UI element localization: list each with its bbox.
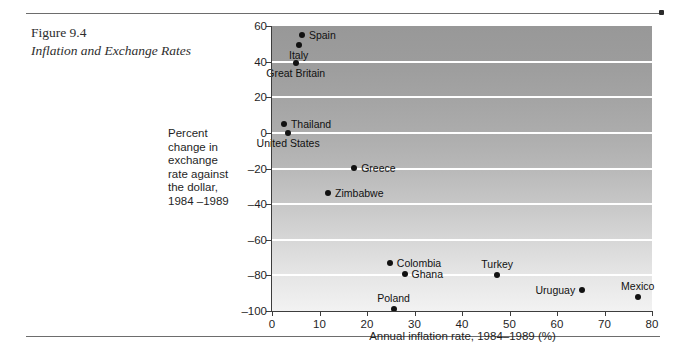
x-tick-label-20: 20 — [361, 318, 374, 330]
gridline-20 — [272, 96, 652, 98]
x-tick-70 — [605, 311, 606, 316]
figure-caption: Figure 9.4 Inflation and Exchange Rates — [31, 24, 206, 60]
y-tick-label--20: –20 — [248, 163, 267, 175]
data-point-mexico — [635, 294, 641, 300]
y-axis-title: Percentchange inexchangerate againstthe … — [168, 127, 256, 209]
y-tick-label--60: –60 — [248, 234, 267, 246]
y-tick-label-40: 40 — [254, 56, 267, 68]
point-label-united-states: United States — [257, 138, 320, 149]
point-label-thailand: Thailand — [291, 118, 331, 129]
y-axis-title-line-1: change in — [168, 141, 256, 155]
point-label-uruguay: Uruguay — [535, 284, 575, 295]
gridline-40 — [272, 61, 652, 63]
y-tick-label--40: –40 — [248, 198, 267, 210]
y-tick-label--80: –80 — [248, 269, 267, 281]
x-tick-label-50: 50 — [503, 318, 516, 330]
y-axis-title-line-0: Percent — [168, 127, 256, 141]
y-axis: 6040200–20–40–60–80–100 — [271, 26, 272, 312]
y-axis-title-line-5: 1984 –1989 — [168, 195, 256, 209]
x-axis: 01020304050607080 — [272, 311, 653, 312]
x-tick-30 — [415, 311, 416, 316]
data-point-ghana — [402, 271, 408, 277]
top-rule — [26, 13, 660, 14]
gridline--20 — [272, 168, 652, 170]
x-tick-label-80: 80 — [646, 318, 659, 330]
x-tick-label-10: 10 — [313, 318, 326, 330]
y-tick-label-0: 0 — [261, 127, 267, 139]
data-point-uruguay — [579, 287, 585, 293]
data-point-thailand — [281, 121, 287, 127]
x-tick-label-60: 60 — [551, 318, 564, 330]
point-label-poland: Poland — [377, 293, 410, 304]
y-axis-title-line-3: rate against — [168, 168, 256, 182]
data-point-spain — [299, 32, 305, 38]
point-label-turkey: Turkey — [481, 259, 513, 270]
gridline--60 — [272, 239, 652, 241]
gridline-0 — [272, 132, 652, 134]
x-tick-80 — [652, 311, 653, 316]
x-tick-60 — [557, 311, 558, 316]
gridline--40 — [272, 203, 652, 205]
data-point-greece — [351, 165, 357, 171]
x-tick-50 — [510, 311, 511, 316]
x-tick-label-70: 70 — [598, 318, 611, 330]
data-point-colombia — [387, 260, 393, 266]
point-label-spain: Spain — [309, 29, 336, 40]
y-axis-title-line-2: exchange — [168, 154, 256, 168]
x-axis-title: Annual inflation rate, 1984–1989 (%) — [272, 330, 653, 342]
y-axis-title-line-4: the dollar, — [168, 181, 256, 195]
point-label-zimbabwe: Zimbabwe — [335, 188, 383, 199]
figure-title: Inflation and Exchange Rates — [31, 42, 206, 60]
point-label-great-britain: Great Britain — [266, 68, 325, 79]
y-tick-label-60: 60 — [254, 20, 267, 32]
x-tick-label-30: 30 — [408, 318, 421, 330]
plot-area: SpainItalyGreat BritainThailandUnited St… — [272, 26, 652, 311]
y-tick-label--100: –100 — [241, 305, 267, 317]
x-tick-label-40: 40 — [456, 318, 469, 330]
point-label-ghana: Ghana — [412, 268, 444, 279]
data-point-italy — [296, 42, 302, 48]
y-tick-label-20: 20 — [254, 91, 267, 103]
corner-marker-dot — [659, 10, 664, 15]
figure-number: Figure 9.4 — [31, 24, 206, 42]
gridline--80 — [272, 274, 652, 276]
point-label-mexico: Mexico — [621, 281, 654, 292]
x-tick-0 — [272, 311, 273, 316]
point-label-italy: Italy — [289, 50, 308, 61]
x-tick-label-0: 0 — [269, 318, 275, 330]
x-tick-10 — [320, 311, 321, 316]
data-point-united-states — [285, 130, 291, 136]
x-tick-20 — [367, 311, 368, 316]
plot-background — [272, 26, 652, 311]
x-tick-40 — [462, 311, 463, 316]
point-label-greece: Greece — [361, 162, 395, 173]
